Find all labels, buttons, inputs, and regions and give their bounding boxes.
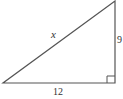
triangle-outline <box>3 1 115 83</box>
hypotenuse-label: x <box>50 28 56 40</box>
right-angle-marker <box>107 76 115 83</box>
vertical-leg-label: 9 <box>117 34 122 45</box>
horizontal-leg-label: 12 <box>53 86 63 97</box>
right-triangle-diagram: x 9 12 <box>0 0 123 99</box>
